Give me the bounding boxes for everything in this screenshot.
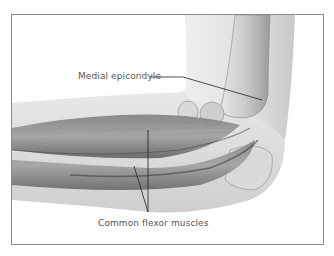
label-medial-epicondyle: Medial epicondyle: [78, 71, 161, 81]
label-common-flexor-muscles: Common flexor muscles: [98, 218, 209, 228]
